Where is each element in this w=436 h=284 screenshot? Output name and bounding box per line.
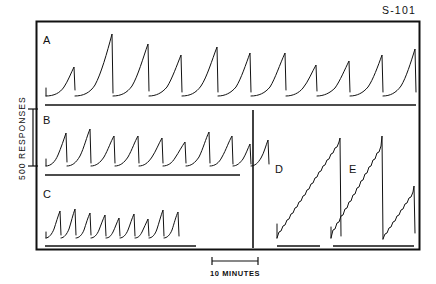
cumulative-record-figure: S-101 A B C D — [0, 0, 436, 284]
panel-e-letter: E — [349, 163, 357, 175]
panel-c-letter: C — [43, 188, 51, 200]
y-axis-label: 500 RESPONSES — [17, 96, 27, 180]
panel-a-letter: A — [43, 34, 51, 46]
panel-d-letter: D — [275, 163, 283, 175]
subject-label: S-101 — [382, 4, 416, 16]
figure-background — [0, 0, 436, 284]
x-axis-label: 10 MINUTES — [210, 269, 260, 278]
panel-b-letter: B — [43, 114, 51, 126]
figure-canvas: S-101 A B C D — [0, 0, 436, 284]
